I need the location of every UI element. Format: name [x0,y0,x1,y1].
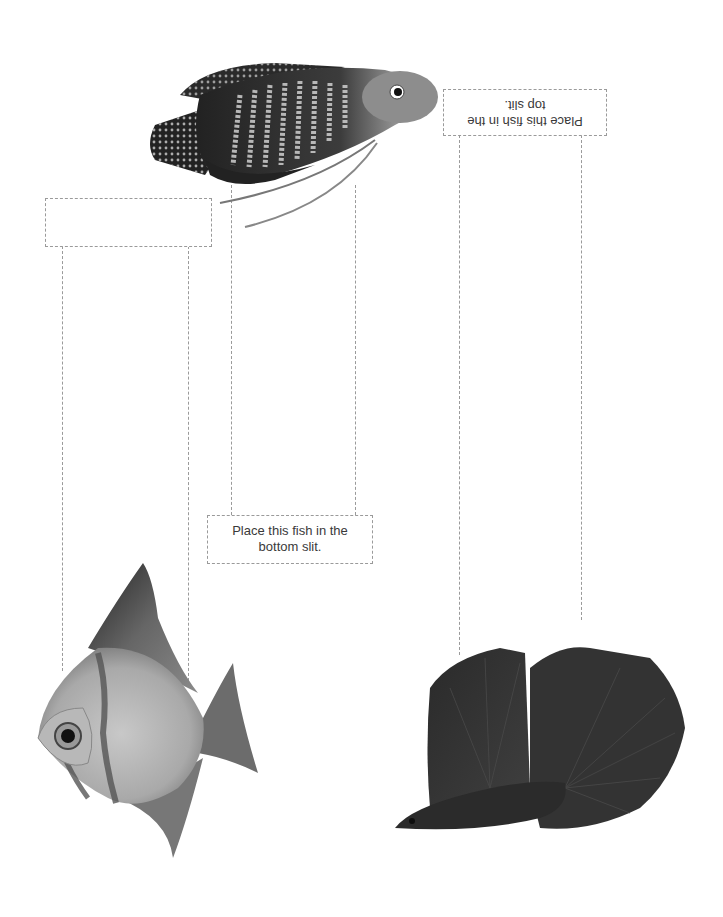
bottom-slit-label: Place this fish in the bottom slit. [208,523,372,555]
bottom-slit-label-line2: bottom slit. [208,539,372,555]
betta-fish-icon [390,638,685,833]
silver-dollar-fish-icon [28,558,263,858]
guide-line-top-box-right [581,135,582,620]
bottom-slit-label-box: Place this fish in the bottom slit. [207,515,373,564]
bottom-slit-label-line1: Place this fish in the [208,523,372,539]
top-slit-label: Place this fish in the top slit. [444,97,606,129]
top-slit-label-box: Place this fish in the top slit. [443,89,607,136]
top-slit-label-line1: Place this fish in the [444,113,606,129]
guide-line-top-box-left [459,135,460,655]
gourami-fish-icon [145,55,440,235]
top-slit-label-line2: top slit. [444,97,606,113]
